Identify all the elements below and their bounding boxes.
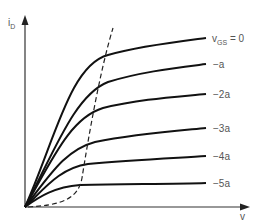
curve-vgs-minus-4a — [25, 156, 206, 207]
y-axis-label: iD — [8, 17, 15, 30]
series-label-minus-5a: −5a — [213, 178, 230, 189]
characteristic-curves — [25, 38, 206, 207]
x-axis-arrow-icon — [240, 204, 250, 211]
jfet-characteristics-diagram: iD v vGS = 0 −a −2a −3a −4a −5a — [0, 0, 258, 223]
series-label-minus-a: −a — [213, 59, 225, 70]
series-label-vgs-0: vGS = 0 — [212, 33, 245, 46]
series-label-minus-2a: −2a — [213, 89, 230, 100]
curve-vgs-minus-5a — [25, 183, 206, 207]
series-label-minus-4a: −4a — [213, 151, 230, 162]
series-label-minus-3a: −3a — [213, 123, 230, 134]
y-axis-arrow-icon — [22, 15, 29, 25]
x-axis-label: v — [240, 211, 245, 222]
curve-vgs-minus-2a — [25, 94, 206, 207]
